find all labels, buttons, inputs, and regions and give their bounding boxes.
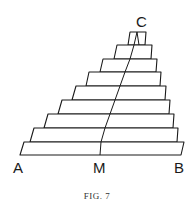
slab-layer-3: [100, 59, 157, 72]
slab-layer-4: [86, 72, 161, 86]
label-B: B: [174, 159, 184, 176]
label-C: C: [136, 13, 147, 30]
label-A: A: [13, 159, 23, 176]
slab-stack: [20, 32, 184, 155]
label-M: M: [93, 159, 106, 176]
figure-caption: FIG. 7: [84, 191, 111, 201]
slab-layer-9: [20, 142, 184, 155]
stacked-slabs-figure: C A M B FIG. 7: [0, 0, 194, 212]
